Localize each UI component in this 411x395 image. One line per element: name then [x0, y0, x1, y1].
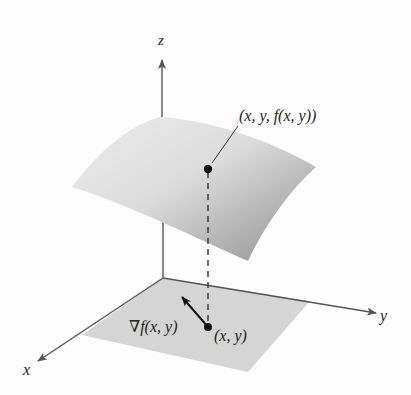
- z-axis-label: z: [157, 32, 164, 48]
- plane-point-label: (x, y): [214, 327, 247, 345]
- y-axis-label: y: [378, 307, 388, 325]
- surface: [72, 117, 316, 261]
- plane-point: [204, 323, 212, 331]
- x-axis-label: x: [22, 361, 30, 378]
- diagram-canvas: z y x (x, y, f(x, y)) (x, y) ∇f(x, y): [0, 0, 411, 395]
- surface-point-label: (x, y, f(x, y)): [239, 107, 316, 125]
- surface-point: [204, 165, 212, 173]
- gradient-label: ∇f(x, y): [129, 318, 177, 336]
- domain-plane: [82, 278, 310, 372]
- surface-diagram: z y x (x, y, f(x, y)) (x, y) ∇f(x, y): [0, 0, 411, 395]
